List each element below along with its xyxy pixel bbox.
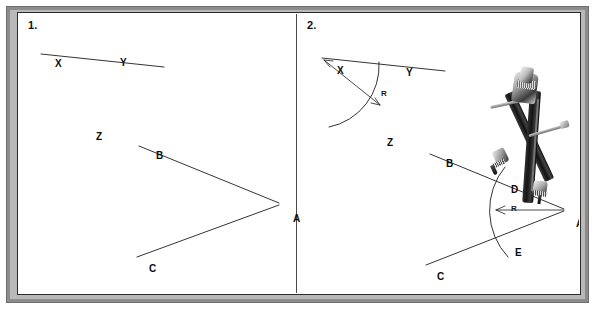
panel-1-number: 1.	[28, 19, 38, 31]
panel1-point-label-x: X	[55, 59, 62, 69]
panel1-point-label-b: B	[156, 151, 163, 161]
panel2-point-label-e: E	[515, 248, 522, 258]
panel2-point-label-z: Z	[387, 138, 393, 148]
panel1-point-label-a: A	[293, 214, 300, 224]
panel1-point-label-c: C	[149, 264, 156, 274]
panel1-point-label-y: Y	[120, 58, 127, 68]
panel2-radius-label-top: R	[381, 90, 387, 98]
panel1-ray-ac	[137, 205, 279, 257]
panel1-point-label-z: Z	[96, 132, 102, 142]
panel-2-number: 2.	[307, 19, 317, 31]
panel2-point-label-a: A	[576, 219, 579, 229]
panel2-radius-line-x	[324, 60, 380, 105]
panel2-point-label-x: X	[337, 66, 344, 76]
panel2-arc-at-a	[489, 167, 508, 257]
panel2-radius-label-bottom: R	[511, 205, 517, 213]
panel2-point-label-c: C	[437, 272, 444, 282]
panel2-point-label-d: D	[511, 185, 518, 195]
drawing-canvas: 1. 2. X Y Z B A C X Y Z B D A E C R R	[19, 14, 579, 293]
panel2-point-label-b: B	[446, 159, 453, 169]
geometry-strokes	[19, 14, 579, 293]
geometry-figure: 1. 2. X Y Z B A C X Y Z B D A E C R R	[0, 0, 595, 309]
panel2-point-label-y: Y	[406, 68, 413, 78]
